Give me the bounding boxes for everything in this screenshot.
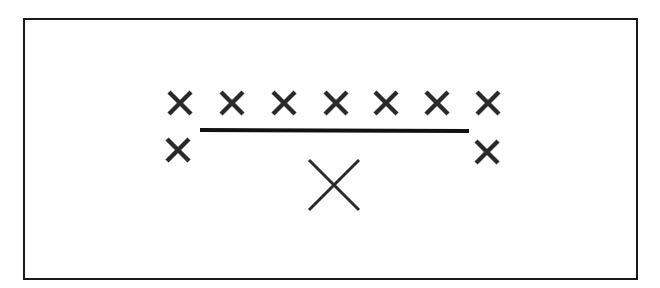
diagram-canvas <box>0 0 660 288</box>
x-mark-icon-top-4 <box>325 92 347 114</box>
x-mark-icon-top-3 <box>273 92 295 114</box>
horizontal-line <box>200 130 469 131</box>
x-mark-icon-top-2 <box>221 92 243 114</box>
x-mark-icon-top-5 <box>375 92 397 114</box>
x-mark-icon-top-6 <box>426 92 448 114</box>
x-mark-icon-left-side <box>167 139 189 161</box>
x-mark-icon-top-7 <box>477 92 499 114</box>
x-mark-icon-right-side <box>476 141 498 163</box>
large-x-mark-icon <box>309 160 359 210</box>
x-mark-icon-top-1 <box>169 92 191 114</box>
